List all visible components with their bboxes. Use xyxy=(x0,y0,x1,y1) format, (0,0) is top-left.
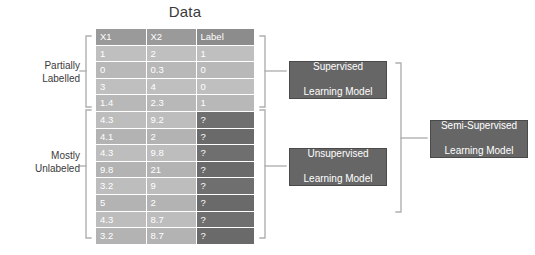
table-header-row: X1 X2 Label xyxy=(96,29,254,45)
supervised-learning-model-box: Supervised Learning Model xyxy=(289,61,387,99)
cell-x1: 3.2 xyxy=(96,228,146,245)
cell-x2: 2 xyxy=(146,128,196,145)
cell-x2: 9 xyxy=(146,178,196,195)
table-row: 121 xyxy=(96,45,254,62)
cell-label: ? xyxy=(196,194,254,211)
label-partially-labelled: Partially Labelled xyxy=(8,60,80,85)
cell-label: 1 xyxy=(196,45,254,62)
label-partially-line1: Partially xyxy=(8,60,80,73)
unsupervised-learning-model-box: Unsupervised Learning Model xyxy=(289,148,387,186)
unsupervised-model-line1: Unsupervised xyxy=(290,148,386,161)
cell-x1: 4.3 xyxy=(96,145,146,162)
table-row: 3.29? xyxy=(96,178,254,195)
cell-x1: 5 xyxy=(96,194,146,211)
supervised-model-line2: Learning Model xyxy=(290,86,386,99)
cell-x1: 4.1 xyxy=(96,128,146,145)
data-table: X1 X2 Label 12100.303401.42.314.39.2?4.1… xyxy=(96,29,254,245)
table-row: 9.821? xyxy=(96,161,254,178)
supervised-model-line1: Supervised xyxy=(290,61,386,74)
cell-label: 0 xyxy=(196,78,254,95)
table-row: 4.38.7? xyxy=(96,211,254,228)
cell-x2: 8.7 xyxy=(146,228,196,245)
cell-label: ? xyxy=(196,228,254,245)
cell-label: ? xyxy=(196,178,254,195)
cell-x2: 9.2 xyxy=(146,111,196,128)
table-row: 52? xyxy=(96,194,254,211)
cell-label: ? xyxy=(196,111,254,128)
cell-x1: 1.4 xyxy=(96,95,146,112)
cell-x1: 3.2 xyxy=(96,178,146,195)
label-mostly-line2: Unlabeled xyxy=(8,163,80,176)
bracket-partially-labelled xyxy=(86,36,91,107)
table-row: 4.39.8? xyxy=(96,145,254,162)
cell-x1: 3 xyxy=(96,78,146,95)
cell-x1: 4.3 xyxy=(96,211,146,228)
column-header-x1: X1 xyxy=(96,29,146,45)
column-header-x2: X2 xyxy=(146,29,196,45)
cell-label: ? xyxy=(196,145,254,162)
table-row: 4.39.2? xyxy=(96,111,254,128)
cell-x2: 0.3 xyxy=(146,62,196,79)
label-mostly-line1: Mostly xyxy=(8,150,80,163)
cell-x2: 2.3 xyxy=(146,95,196,112)
cell-label: ? xyxy=(196,161,254,178)
unsupervised-model-line2: Learning Model xyxy=(290,173,386,186)
label-partially-line2: Labelled xyxy=(8,73,80,86)
cell-x2: 2 xyxy=(146,45,196,62)
bracket-unsupervised-source xyxy=(260,110,265,238)
table-row: 4.12? xyxy=(96,128,254,145)
cell-x2: 4 xyxy=(146,78,196,95)
semi-model-line1: Semi-Supervised xyxy=(431,120,527,133)
table-row: 00.30 xyxy=(96,62,254,79)
cell-x1: 0 xyxy=(96,62,146,79)
cell-x2: 21 xyxy=(146,161,196,178)
cell-label: 0 xyxy=(196,62,254,79)
semi-supervised-learning-model-box: Semi-Supervised Learning Model xyxy=(430,120,528,158)
semi-model-line2: Learning Model xyxy=(431,145,527,158)
cell-label: ? xyxy=(196,128,254,145)
cell-label: ? xyxy=(196,211,254,228)
label-mostly-unlabeled: Mostly Unlabeled xyxy=(8,150,80,175)
cell-x1: 4.3 xyxy=(96,111,146,128)
cell-x2: 9.8 xyxy=(146,145,196,162)
cell-x1: 1 xyxy=(96,45,146,62)
bracket-mostly-unlabeled xyxy=(86,110,91,238)
table-row: 340 xyxy=(96,78,254,95)
cell-x1: 9.8 xyxy=(96,161,146,178)
table-body: X1 X2 Label 12100.303401.42.314.39.2?4.1… xyxy=(96,29,254,244)
cell-x2: 8.7 xyxy=(146,211,196,228)
table-row: 1.42.31 xyxy=(96,95,254,112)
column-header-label: Label xyxy=(196,29,254,45)
table-row: 3.28.7? xyxy=(96,228,254,245)
bracket-semi-supervised-source xyxy=(396,63,401,212)
page-title: Data xyxy=(140,3,230,20)
bracket-supervised-source xyxy=(260,36,265,107)
cell-x2: 2 xyxy=(146,194,196,211)
cell-label: 1 xyxy=(196,95,254,112)
